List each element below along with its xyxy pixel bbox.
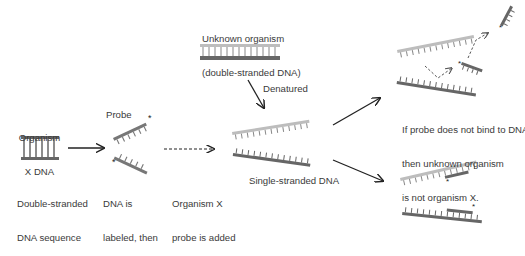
step1-caption: Double-stranded DNA sequence unique to o… <box>17 175 88 256</box>
caption-line: labeled, then <box>103 232 158 243</box>
arrow-up-right-icon <box>333 98 380 125</box>
caption-line: probe is added <box>172 232 243 243</box>
unknown-title-line2: (double-stranded DNA) <box>202 67 282 78</box>
denatured-label: Denatured <box>263 83 308 94</box>
single-stranded-dna-icon <box>232 120 311 167</box>
probe-title: Probe <box>106 109 132 120</box>
caption-line: DNA is <box>103 198 158 209</box>
probe-icon: * * <box>112 113 152 174</box>
caption-line: If probe does not bind to DNA, <box>402 124 525 135</box>
svg-text:*: * <box>148 113 152 123</box>
caption-line: is not organism X. <box>402 192 525 203</box>
svg-text:*: * <box>458 59 461 68</box>
caption-line: then unknown organism <box>402 158 525 169</box>
no-bind-caption: If probe does not bind to DNA, then unkn… <box>402 101 525 215</box>
step2-caption: DNA is labeled, then denatured to become… <box>103 175 158 256</box>
caption-line: Organism X <box>172 198 243 209</box>
step1-title-line1: Organism <box>12 132 67 143</box>
bind-caption: If probe binds to DNA, then unknown orga… <box>395 233 525 256</box>
no-bind-illustration: * * <box>397 6 517 97</box>
unknown-organism-title: Unknown organism (double-stranded DNA) <box>202 10 282 90</box>
unknown-title-line1: Unknown organism <box>202 33 282 44</box>
single-stranded-dna-caption: Single-stranded DNA <box>249 175 339 186</box>
caption-line: DNA sequence <box>17 232 88 243</box>
arrow-down-right-icon <box>333 160 383 181</box>
svg-text:*: * <box>112 157 116 167</box>
step3-caption: Organism X probe is added to denatured, … <box>172 175 243 256</box>
caption-line: Double-stranded <box>17 198 88 209</box>
svg-text:*: * <box>499 23 502 32</box>
